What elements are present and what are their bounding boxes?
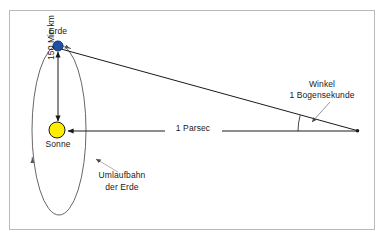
earth-sun-distance-label: 150 Mio km [46,0,57,60]
sun-label: Sonne [45,139,70,150]
sun-marker [49,122,65,138]
diagram-root: Erde Sonne 150 Mio km 1 Parsec Winkel 1 … [0,0,386,242]
orbit-label-line2: der Erde [105,182,138,193]
orbit-direction-marker-top [68,48,71,49]
angle-label-line1: Winkel [309,79,335,90]
parsec-label: 1 Parsec [176,123,210,134]
angle-arc [298,115,300,131]
apex-point [356,129,360,133]
angle-label-leader [312,102,330,122]
angle-label-line2: 1 Bogensekunde [289,90,354,101]
orbit-label-line1: Umlaufbahn [99,170,146,181]
